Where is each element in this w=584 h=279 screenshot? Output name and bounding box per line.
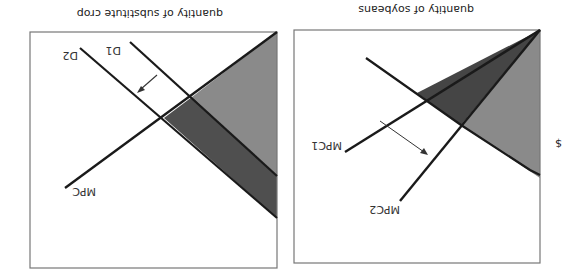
d2-label: D2 (63, 49, 78, 62)
panel-soybeans: MPC1 MPC2 $ quantity of soybeans (294, 3, 562, 263)
y-axis-label: $ (555, 137, 562, 150)
mpc-label: MPC (72, 185, 96, 198)
mpc2-label: MPC2 (369, 203, 400, 216)
figure-canvas: D1 D2 MPC quantity of substitute crop MP… (0, 0, 584, 279)
d1-label: D1 (106, 44, 121, 57)
mpc1-label: MPC1 (311, 139, 342, 152)
arrowhead-icon (420, 148, 428, 155)
x-axis-label: quantity of substitute crop (77, 7, 223, 20)
shift-arrow-icon (141, 75, 157, 89)
x-axis-label: quantity of soybeans (358, 3, 474, 16)
shift-arrow-icon (380, 121, 424, 152)
panel-substitute-crop: D1 D2 MPC quantity of substitute crop (30, 7, 277, 268)
